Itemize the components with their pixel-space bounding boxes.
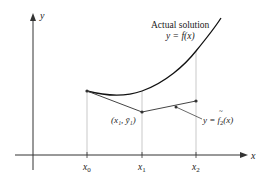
tick-label-x0: x0 bbox=[82, 162, 91, 174]
curve-label-line2: y = f(x) bbox=[165, 31, 195, 42]
y-axis-label: y bbox=[39, 10, 45, 21]
approx-label: y = f2(x) bbox=[202, 115, 233, 126]
curve-label-line1: Actual solution bbox=[151, 20, 210, 30]
point-x1-ybar1 bbox=[140, 110, 143, 113]
point-x2 bbox=[194, 99, 197, 102]
y-axis-arrow-icon bbox=[30, 13, 36, 21]
leader-dot bbox=[175, 106, 178, 109]
approx-tilde-icon: ~ bbox=[219, 107, 223, 115]
tick-label-x2: x2 bbox=[191, 162, 200, 174]
x-axis-label: x bbox=[250, 150, 256, 161]
x-axis-arrow-icon bbox=[240, 152, 248, 158]
point-x0 bbox=[85, 89, 88, 92]
tick-label-x1: x1 bbox=[137, 162, 146, 174]
approx-leader-line bbox=[176, 107, 202, 119]
diagram-canvas: y x x0 x1 x2 Actual solution y = f(x) (x… bbox=[0, 0, 267, 181]
point-label: (x₁, ȳ₁) bbox=[111, 115, 136, 125]
